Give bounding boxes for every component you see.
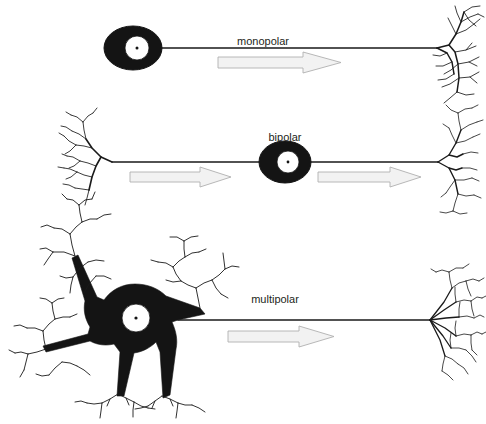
axon-terminal-twigs-monopolar [433,6,484,103]
axon-terminal-bipolar [438,130,463,194]
dendrite-twigs-lower-left [75,394,155,418]
dendrite-twigs-upper-left [40,192,111,293]
label-monopolar: monopolar [237,35,289,47]
signal-arrow-bipolar-proximal [130,167,231,187]
axon-terminal-twigs-multipolar [431,264,486,380]
neuron-bipolar: bipolar [58,105,483,214]
neuron-diagram: monopolar [0,0,486,424]
nucleolus-multipolar [134,316,137,319]
soma-multipolar [43,255,205,398]
signal-arrow-monopolar [218,52,341,73]
dendrite-twigs-lower-right [135,396,205,418]
signal-arrow-bipolar-distal [318,167,421,187]
dendrite-bipolar [86,139,112,190]
nucleolus-bipolar [287,161,290,164]
nucleolus-monopolar [136,47,139,50]
axon-terminal-twigs-bipolar [440,105,483,214]
label-bipolar: bipolar [268,131,301,143]
neuron-diagram-canvas: monopolar [0,0,486,424]
axon-terminal-multipolar [430,288,459,356]
label-multipolar: multipolar [251,293,299,305]
dendrite-bipolar-twigs [58,108,97,205]
signal-arrow-multipolar [228,326,334,347]
neuron-monopolar: monopolar [104,6,484,103]
neuron-multipolar: multipolar [9,192,486,418]
